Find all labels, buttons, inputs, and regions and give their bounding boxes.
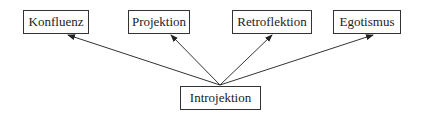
node-retroflektion: Retroflektion [232, 10, 312, 34]
arrow-to-retroflektion [220, 35, 272, 85]
node-konfluenz: Konfluenz [23, 10, 89, 34]
node-label: Projektion [132, 14, 186, 30]
arrow-to-egotismus [220, 35, 373, 85]
node-label: Egotismus [340, 14, 395, 30]
node-label: Introjektion [190, 90, 251, 106]
arrow-to-projektion [171, 35, 220, 85]
node-egotismus: Egotismus [333, 10, 401, 34]
arrow-to-konfluenz [68, 35, 220, 85]
node-label: Retroflektion [237, 14, 306, 30]
node-projektion: Projektion [128, 10, 190, 34]
node-introjektion: Introjektion [180, 86, 261, 110]
node-label: Konfluenz [29, 14, 84, 30]
